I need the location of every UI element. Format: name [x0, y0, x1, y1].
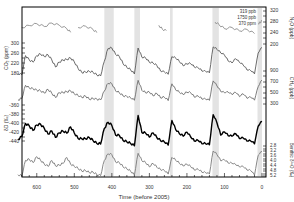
svg-text:5.2: 5.2	[270, 173, 277, 178]
svg-text:200: 200	[183, 184, 192, 190]
svg-text:-400: -400	[9, 120, 19, 126]
svg-text:370 ppm: 370 ppm	[238, 21, 256, 26]
ch4-axis-label: CH₄ (ppb)	[289, 77, 294, 100]
svg-text:280: 280	[270, 18, 279, 24]
n2o-axis-label: N₂O (ppb)	[289, 17, 294, 40]
svg-text:180: 180	[11, 70, 20, 76]
svg-text:-380: -380	[9, 111, 19, 117]
co2-axis: 300 260 220 180 CO₂ (ppm)	[3, 40, 19, 76]
svg-text:319 ppb: 319 ppb	[240, 9, 257, 14]
svg-text:320: 320	[270, 7, 279, 13]
svg-text:-420: -420	[9, 129, 19, 135]
svg-text:300: 300	[270, 100, 279, 106]
x-axis-ticks: 6005004003002001000	[22, 173, 264, 190]
interglacial-shading	[104, 8, 262, 176]
d18o-axis-label: Benthic δ¹⁸O (‰)	[289, 143, 294, 178]
svg-text:300: 300	[145, 184, 154, 190]
svg-text:100: 100	[220, 184, 229, 190]
d18o-axis: 2.8 3.2 3.6 4.0 4.4 4.8 5.2 Benthic δ¹⁸O…	[270, 143, 294, 178]
svg-text:200: 200	[270, 41, 279, 47]
deltad-axis-label: δD (‰)	[3, 115, 9, 131]
svg-text:-440: -440	[9, 138, 19, 144]
svg-text:500: 500	[70, 184, 79, 190]
svg-text:220: 220	[11, 60, 20, 66]
svg-text:240: 240	[270, 29, 279, 35]
ice-core-chart: 6005004003002001000 Time (before 2005) 3…	[0, 0, 294, 202]
deltad-axis: -360 -380 -400 -420 -440 δD (‰)	[3, 102, 19, 144]
svg-text:500: 500	[270, 89, 279, 95]
x-axis-label: Time (before 2005)	[119, 194, 170, 200]
svg-text:400: 400	[108, 184, 117, 190]
ch4-axis: 900 700 500 300 CH₄ (ppb)	[270, 67, 294, 106]
svg-text:600: 600	[33, 184, 42, 190]
plot-frame	[22, 7, 266, 177]
svg-text:900: 900	[270, 67, 279, 73]
svg-text:260: 260	[11, 50, 20, 56]
svg-text:700: 700	[270, 78, 279, 84]
svg-text:-360: -360	[9, 102, 19, 108]
svg-text:0: 0	[261, 184, 264, 190]
svg-text:1750 ppb: 1750 ppb	[237, 15, 256, 20]
co2-axis-label: CO₂ (ppm)	[3, 46, 9, 70]
n2o-axis: 320 280 240 200 N₂O (ppb)	[270, 7, 294, 47]
present-day-annotations: 319 ppb 1750 ppb 370 ppm	[237, 9, 256, 26]
svg-text:300: 300	[11, 40, 20, 46]
